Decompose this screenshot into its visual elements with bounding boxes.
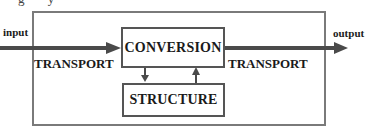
transport-out-label: TRANSPORT: [228, 56, 308, 72]
conversion-label: CONVERSION: [125, 40, 222, 56]
structure-label: STRUCTURE: [129, 92, 217, 108]
transport-in-label: TRANSPORT: [34, 56, 114, 72]
output-label: output: [333, 27, 364, 39]
conversion-box: CONVERSION: [121, 27, 225, 68]
input-label: input: [3, 26, 28, 38]
structure-box: STRUCTURE: [122, 83, 225, 117]
caption-fragment: g y: [18, 0, 64, 7]
system-diagram: g y CONVERSION STRUCTURE input output TR…: [0, 0, 370, 128]
